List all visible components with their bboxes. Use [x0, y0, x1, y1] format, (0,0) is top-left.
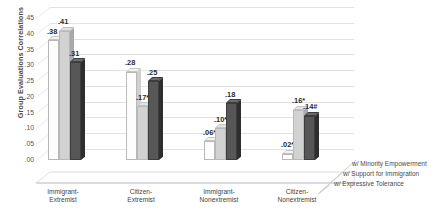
bar — [148, 81, 159, 160]
bar-side — [315, 113, 319, 160]
bar-side — [237, 100, 241, 160]
x-category-label: Citizen-Extremist — [102, 188, 180, 204]
x-category-label-line: Immigrant- — [24, 188, 102, 196]
bar-face — [126, 72, 137, 160]
x-category-label-line: Extremist — [24, 196, 102, 204]
bar-face — [148, 81, 159, 160]
bar — [293, 110, 304, 160]
bar-value-label: .25 — [147, 69, 157, 76]
y-tick-label: .20 — [8, 94, 34, 101]
y-tick-label: .05 — [8, 141, 34, 148]
bar-face — [70, 62, 81, 160]
bar-group: .38.41.31 — [40, 18, 118, 160]
bar — [126, 72, 137, 160]
bar-group: .28.17*.25 — [118, 18, 196, 160]
bar-group: .06**.10**.18 — [196, 18, 274, 160]
legend-item: w/ Support for Immigration — [343, 170, 419, 177]
plot-area: .38.41.31.28.17*.25.06**.10**.18.02***.1… — [36, 4, 356, 184]
bar-face — [204, 141, 215, 160]
bar — [204, 141, 215, 160]
gridline — [50, 7, 354, 8]
y-tick-label: .00 — [8, 157, 34, 164]
y-tick-label: .15 — [8, 110, 34, 117]
x-category-label: Immigrant-Extremist — [24, 188, 102, 204]
bar — [282, 154, 293, 160]
y-tick-label: .25 — [8, 78, 34, 85]
bar-chart: Group Evaluations Correlations .45.40.35… — [0, 0, 443, 222]
bar — [70, 62, 81, 160]
bar-side — [159, 78, 163, 160]
x-category-label: Immigrant-Nonextremist — [180, 188, 258, 204]
bar — [48, 40, 59, 160]
bar-face — [48, 40, 59, 160]
bar-side — [81, 59, 85, 160]
y-tick-label: .30 — [8, 62, 34, 69]
bar-face — [215, 128, 226, 160]
y-tick-label: .35 — [8, 47, 34, 54]
chart-floor — [36, 160, 356, 184]
bar-value-label: .31 — [69, 50, 79, 57]
bar-group: .02***.16*.14# — [274, 18, 352, 160]
bar-face — [226, 103, 237, 160]
legend-item: w/ Expressive Tolerance — [334, 180, 404, 187]
x-category-label-line: Citizen- — [102, 188, 180, 196]
bar-value-label: .14# — [303, 103, 317, 110]
bar — [304, 116, 315, 160]
bar-value-label: .28 — [125, 59, 135, 66]
bar — [137, 106, 148, 160]
bar — [226, 103, 237, 160]
y-tick-label: .10 — [8, 125, 34, 132]
x-category-label-line: Immigrant- — [180, 188, 258, 196]
x-category-label-line: Extremist — [102, 196, 180, 204]
y-tick-label: .40 — [8, 31, 34, 38]
bar-face — [137, 106, 148, 160]
bar-face — [304, 116, 315, 160]
legend-item: w/ Minority Empowerment — [352, 160, 427, 167]
bar-face — [293, 110, 304, 160]
bar — [215, 128, 226, 160]
x-category-label-line: Nonextremist — [180, 196, 258, 204]
bar-face — [282, 154, 293, 160]
bar-value-label: .41 — [58, 18, 68, 25]
bar-value-label: .38 — [47, 28, 57, 35]
y-tick-label: .45 — [8, 15, 34, 22]
bar-value-label: .18 — [225, 91, 235, 98]
